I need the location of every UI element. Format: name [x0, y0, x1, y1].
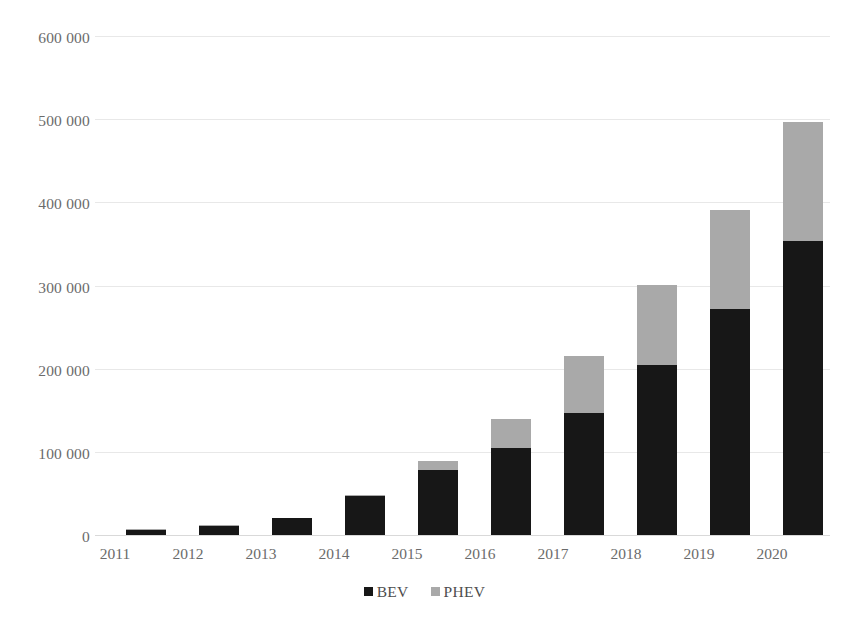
y-axis-tick-100000: 100 000 [0, 446, 90, 462]
x-axis-tick-2015: 2015 [367, 546, 447, 562]
x-axis-tick-2011: 2011 [75, 546, 155, 562]
y-axis-tick-400000: 400 000 [0, 196, 90, 212]
bar-segment-bev [710, 309, 750, 535]
chart-legend: BEV PHEV [0, 584, 849, 600]
bar-segment-phev [418, 461, 458, 470]
bar-segment-bev [199, 526, 239, 535]
legend-label-phev: PHEV [444, 584, 486, 600]
bar-segment-bev [126, 530, 166, 535]
y-axis-tick-0: 0 [0, 529, 90, 545]
y-axis-tick-200000: 200 000 [0, 363, 90, 379]
bar-stack [564, 356, 604, 535]
bar-segment-bev [345, 496, 385, 535]
x-axis-tick-2019: 2019 [659, 546, 739, 562]
y-axis-tick-300000: 300 000 [0, 280, 90, 296]
legend-item-bev[interactable]: BEV [364, 584, 409, 600]
gridline-0 [95, 535, 830, 536]
legend-swatch-bev-icon [364, 587, 373, 596]
bar-stack [345, 495, 385, 535]
legend-label-bev: BEV [377, 584, 409, 600]
bar-segment-bev [783, 241, 823, 535]
legend-swatch-phev-icon [431, 587, 440, 596]
bar-segment-bev [418, 470, 458, 535]
stacked-bar-chart: 600 000 500 000 400 000 300 000 200 000 … [0, 0, 849, 628]
bar-segment-bev [491, 448, 531, 535]
bar-stack [491, 419, 531, 535]
x-axis-tick-2016: 2016 [440, 546, 520, 562]
x-axis-tick-2012: 2012 [148, 546, 228, 562]
bar-stack [126, 529, 166, 535]
x-axis-tick-2017: 2017 [513, 546, 593, 562]
bar-stack [418, 461, 458, 535]
legend-item-phev[interactable]: PHEV [431, 584, 486, 600]
bar-segment-phev [710, 210, 750, 309]
bar-segment-phev [637, 285, 677, 366]
y-axis-tick-600000: 600 000 [0, 30, 90, 46]
y-axis-tick-500000: 500 000 [0, 113, 90, 129]
x-axis-tick-2014: 2014 [294, 546, 374, 562]
bars-layer [95, 36, 830, 535]
x-axis-tick-2020: 2020 [732, 546, 812, 562]
bar-segment-phev [564, 356, 604, 413]
bar-segment-phev [491, 419, 531, 448]
bar-segment-bev [564, 413, 604, 535]
bar-stack [199, 525, 239, 535]
bar-segment-bev [272, 518, 312, 535]
bar-stack [710, 210, 750, 535]
x-axis-tick-2018: 2018 [586, 546, 666, 562]
bar-stack [637, 285, 677, 535]
bar-stack [783, 122, 823, 535]
bar-segment-bev [637, 365, 677, 535]
x-axis-tick-2013: 2013 [221, 546, 301, 562]
bar-segment-phev [783, 122, 823, 242]
bar-stack [272, 518, 312, 535]
